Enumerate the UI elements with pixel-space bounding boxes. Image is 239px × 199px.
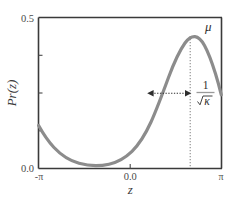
chart-figure: 0.5 0.0 -π 0.0 π z Pr(z) μ 1 κ <box>0 0 239 199</box>
von-mises-distribution-plot: 0.5 0.0 -π 0.0 π z Pr(z) μ 1 κ <box>0 0 239 199</box>
x-tick-label-center: 0.0 <box>124 171 137 182</box>
y-tick-label-bottom: 0.0 <box>21 163 34 174</box>
x-axis-title: z <box>127 182 133 197</box>
x-tick-label-left: -π <box>35 171 43 182</box>
y-tick-label-top: 0.5 <box>21 13 34 24</box>
x-tick-label-right: π <box>218 171 223 182</box>
fraction-denominator: κ <box>204 95 210 107</box>
fraction-numerator: 1 <box>203 79 209 91</box>
y-axis-title: Pr(z) <box>4 80 19 108</box>
mu-annotation-label: μ <box>204 19 212 34</box>
